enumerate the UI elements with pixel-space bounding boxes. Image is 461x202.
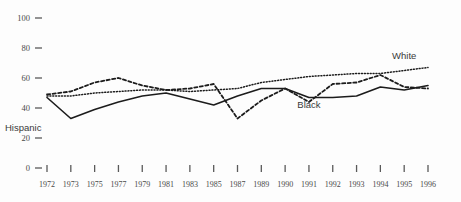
- x-tick-label-1973: 1973: [63, 180, 79, 189]
- x-axis-tick-marks: [47, 165, 428, 172]
- y-tick-label-60: 60: [22, 73, 31, 83]
- y-tick-label-80: 80: [22, 43, 31, 53]
- line-chart: 020406080100 197219731975197719791981198…: [0, 0, 461, 202]
- chart-canvas: 020406080100 197219731975197719791981198…: [0, 0, 461, 202]
- y-tick-label-40: 40: [22, 103, 31, 113]
- x-tick-label-1983: 1983: [182, 180, 198, 189]
- y-axis-tick-labels: 020406080100: [17, 13, 30, 173]
- x-tick-label-1994: 1994: [372, 180, 388, 189]
- x-tick-label-1979: 1979: [134, 180, 150, 189]
- x-tick-label-1977: 1977: [110, 180, 126, 189]
- x-tick-label-1975: 1975: [87, 180, 103, 189]
- series-line-white: [47, 68, 428, 97]
- annotation-hispanic: Hispanic: [5, 122, 42, 133]
- data-series-lines: [47, 68, 428, 119]
- x-tick-label-1993: 1993: [349, 180, 365, 189]
- y-tick-label-100: 100: [17, 13, 30, 23]
- x-tick-label-1972: 1972: [39, 180, 55, 189]
- y-tick-label-20: 20: [22, 133, 31, 143]
- x-tick-label-1981: 1981: [158, 180, 174, 189]
- x-tick-label-1989: 1989: [253, 180, 269, 189]
- y-axis-tick-marks: [35, 18, 42, 168]
- x-tick-label-1987: 1987: [230, 180, 246, 189]
- annotation-white: White: [392, 50, 416, 61]
- series-line-black: [47, 86, 428, 119]
- y-tick-label-0: 0: [26, 163, 30, 173]
- x-tick-label-1995: 1995: [396, 180, 412, 189]
- x-tick-label-1996: 1996: [420, 180, 436, 189]
- series-annotation-labels: WhiteBlackHispanic: [5, 50, 416, 133]
- x-tick-label-1991: 1991: [301, 180, 317, 189]
- x-tick-label-1992: 1992: [325, 180, 341, 189]
- x-axis-tick-labels: 1972197319751977197919811983198519871989…: [39, 180, 436, 189]
- x-tick-label-1990: 1990: [277, 180, 293, 189]
- x-tick-label-1985: 1985: [206, 180, 222, 189]
- annotation-black: Black: [297, 99, 320, 110]
